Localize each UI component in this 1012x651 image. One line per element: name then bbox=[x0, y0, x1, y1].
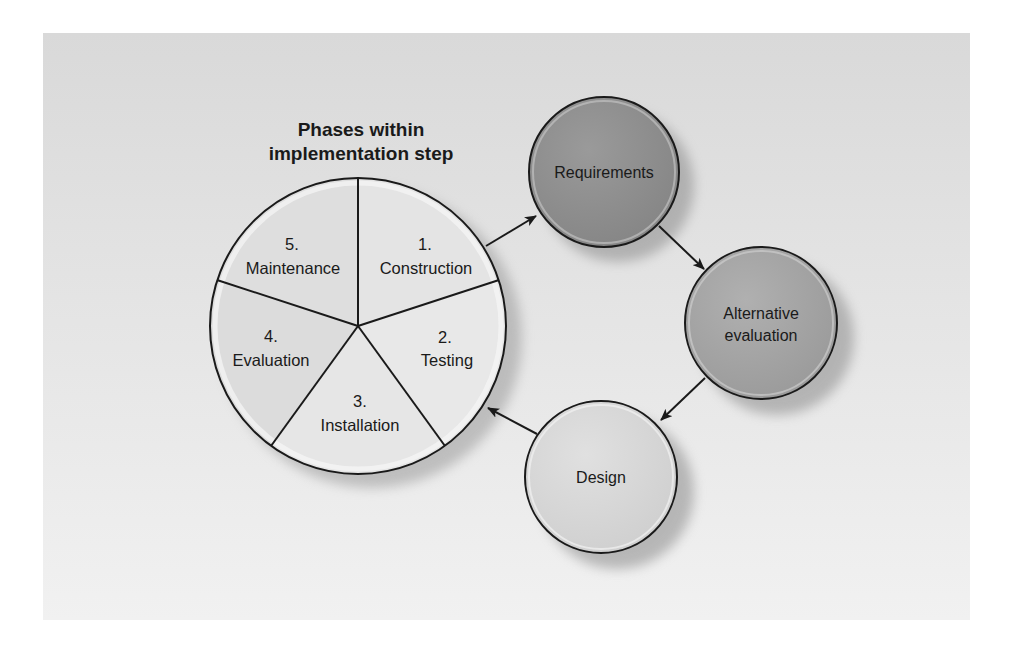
slice-label-maintenance: Maintenance bbox=[246, 259, 340, 277]
slice-label-construction: Construction bbox=[380, 259, 473, 277]
slice-number-2: 2. bbox=[438, 328, 452, 346]
slice-number-1: 1. bbox=[418, 235, 432, 253]
slice-number-5: 5. bbox=[285, 235, 299, 253]
node-label-requirements: Requirements bbox=[554, 164, 654, 181]
slice-label-evaluation: Evaluation bbox=[232, 351, 309, 369]
node-requirements: Requirements bbox=[529, 97, 679, 247]
sdlc-cycle-diagram: Phases within implementation step 1. Con… bbox=[0, 0, 1012, 651]
implementation-pie: 1. Construction 2. Testing 3. Installati… bbox=[210, 178, 507, 474]
node-label-evaluation: evaluation bbox=[725, 327, 798, 344]
slice-number-4: 4. bbox=[264, 327, 278, 345]
title-line-1: Phases within bbox=[298, 119, 425, 140]
title-line-2: implementation step bbox=[269, 143, 454, 164]
node-label-alternative: Alternative bbox=[723, 305, 799, 322]
arrow-requirements-to-alternative bbox=[659, 226, 704, 269]
slice-label-testing: Testing bbox=[421, 351, 473, 369]
node-design: Design bbox=[525, 401, 677, 553]
slice-label-installation: Installation bbox=[321, 416, 400, 434]
arrow-alternative-to-design bbox=[661, 378, 705, 420]
slice-number-3: 3. bbox=[353, 392, 367, 410]
pie-title: Phases within implementation step bbox=[269, 119, 454, 164]
node-label-design: Design bbox=[576, 469, 626, 486]
arrow-implementation-to-requirements bbox=[486, 216, 536, 246]
node-alternative-evaluation: Alternative evaluation bbox=[685, 247, 837, 399]
